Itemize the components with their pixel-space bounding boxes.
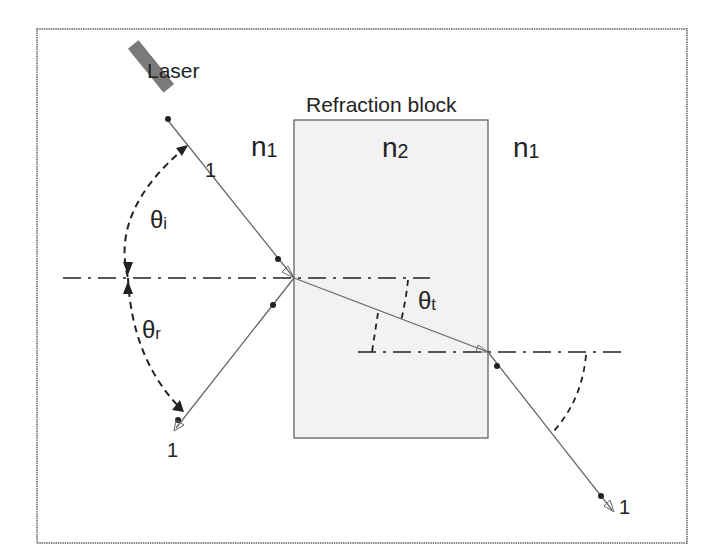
theta-r-label: θr — [142, 318, 161, 342]
ray-number-exit: 1 — [619, 497, 630, 517]
ray-dot — [165, 116, 171, 122]
ray-dot — [275, 256, 281, 262]
theta-i-label: θi — [150, 208, 167, 232]
n1-left-label: n1 — [251, 133, 277, 161]
n1-right-label: n1 — [513, 134, 539, 162]
block-label: Refraction block — [306, 94, 457, 115]
ray-dot — [598, 493, 604, 499]
ray-dot — [270, 302, 276, 308]
ray-number-incident: 1 — [205, 160, 216, 180]
diagram-canvas — [0, 0, 715, 558]
ray-dot — [494, 363, 500, 369]
laser-label: Laser — [147, 60, 200, 81]
ray-number-reflected: 1 — [167, 440, 178, 460]
theta-t-label: θt — [418, 289, 436, 313]
refraction-block — [294, 120, 488, 438]
n2-label: n2 — [382, 134, 408, 162]
